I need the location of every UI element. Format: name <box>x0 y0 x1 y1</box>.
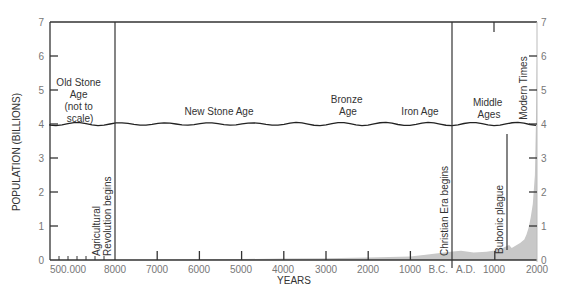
y-tick-label-left: 4 <box>38 119 44 130</box>
x-tick-label: 4000 <box>272 264 295 275</box>
y-tick-label-left: 6 <box>38 51 44 62</box>
axis-break-wave <box>50 122 536 125</box>
x-tick-label: B.C. <box>429 264 448 275</box>
y-tick-label-left: 7 <box>38 17 44 28</box>
y-ticks-left: 01234567 <box>38 17 58 266</box>
era-bronze-age: Bronze Age <box>331 94 365 117</box>
era-modern-times: Modern Times <box>518 56 529 119</box>
x-tick-label: 5000 <box>230 264 253 275</box>
y-axis-title: POPULATION (BILLIONS) <box>11 93 22 211</box>
x-tick-label: A.D. <box>456 264 475 275</box>
y-tick-label-left: 3 <box>38 153 44 164</box>
y-tick-label-right: 7 <box>541 17 547 28</box>
y-tick-label-right: 1 <box>541 221 547 232</box>
population-area <box>50 53 537 260</box>
era-old-stone-age: Old Stone Age (not to scale) <box>56 77 103 124</box>
x-tick-label: 6000 <box>188 264 211 275</box>
x-tick-label: 1000 <box>483 264 506 275</box>
y-tick-label-left: 1 <box>38 221 44 232</box>
x-tick-label: 1000 <box>399 264 422 275</box>
era-middle-ages: Middle Ages <box>473 97 505 120</box>
y-tick-label-right: 5 <box>541 85 547 96</box>
era-iron-age: Iron Age <box>401 106 439 117</box>
christian-era-label: Christian Era begins <box>439 166 450 256</box>
y-tick-label-left: 0 <box>38 255 44 266</box>
x-tick-label: 500.000 <box>50 264 87 275</box>
x-axis-title: YEARS <box>277 275 311 286</box>
x-tick-label: 3000 <box>315 264 338 275</box>
x-tick-label: 7000 <box>146 264 169 275</box>
agricultural-revolution-label: Agricultural Revolution begins <box>91 177 113 257</box>
x-tick-label: 2000 <box>357 264 380 275</box>
y-tick-label-right: 6 <box>541 51 547 62</box>
x-tick-label: 8000 <box>104 264 127 275</box>
y-tick-label-right: 3 <box>541 153 547 164</box>
y-tick-label-right: 2 <box>541 187 547 198</box>
y-tick-label-left: 5 <box>38 85 44 96</box>
y-tick-label-left: 2 <box>38 187 44 198</box>
x-tick-label: 2000 <box>526 264 549 275</box>
population-chart: 01234567 01234567 500.000800070006000500… <box>0 0 561 302</box>
era-new-stone-age: New Stone Age <box>185 106 254 117</box>
bubonic-plague-label: Bubonic plague <box>494 185 505 254</box>
y-tick-label-right: 4 <box>541 119 547 130</box>
